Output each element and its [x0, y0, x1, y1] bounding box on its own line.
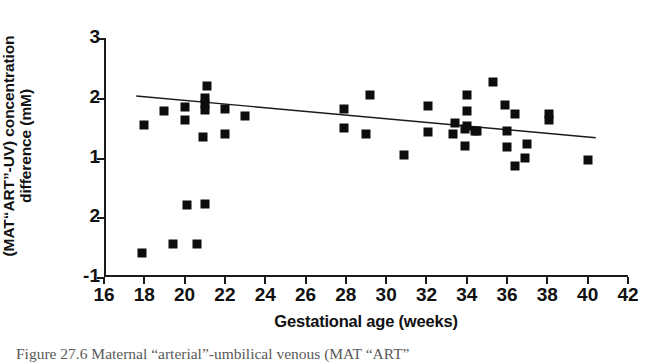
- y-tick-label: 1: [89, 147, 100, 167]
- data-point: [511, 162, 520, 171]
- data-point: [339, 123, 348, 132]
- x-tick-label: 20: [174, 285, 195, 305]
- data-point: [450, 119, 459, 128]
- figure-caption: Figure 27.6 Maternal “arterial”-umbilica…: [16, 345, 664, 362]
- data-point: [424, 101, 433, 110]
- data-point: [460, 141, 469, 150]
- data-point: [180, 102, 189, 111]
- x-tick-label: 22: [214, 285, 235, 305]
- data-point: [501, 100, 510, 109]
- y-tick-label: 2: [89, 206, 100, 226]
- x-tick-label: 24: [255, 285, 276, 305]
- x-tick-mark: [345, 277, 347, 284]
- x-tick-mark: [587, 277, 589, 284]
- data-point: [503, 126, 512, 135]
- data-point: [472, 126, 481, 135]
- data-point: [160, 106, 169, 115]
- x-tick-label: 42: [617, 285, 638, 305]
- y-tick-label: 3: [89, 27, 100, 47]
- x-tick-label: 16: [93, 285, 114, 305]
- x-tick-mark: [224, 277, 226, 284]
- y-axis-title-wrap: (MAT“ART”-UV) concentration difference (…: [0, 0, 62, 300]
- data-point: [182, 201, 191, 210]
- data-point: [180, 116, 189, 125]
- x-tick-mark: [305, 277, 307, 284]
- data-point: [583, 156, 592, 165]
- data-point: [192, 240, 201, 249]
- data-point: [503, 143, 512, 152]
- regression-trend-line: [104, 38, 628, 277]
- data-point: [220, 129, 229, 138]
- x-tick-label: 32: [416, 285, 437, 305]
- data-point: [241, 111, 250, 120]
- data-point: [511, 109, 520, 118]
- x-tick-mark: [546, 277, 548, 284]
- x-tick-mark: [627, 277, 629, 284]
- data-point: [424, 127, 433, 136]
- data-point: [448, 129, 457, 138]
- data-point: [168, 240, 177, 249]
- x-tick-mark: [385, 277, 387, 284]
- y-tick-label: -1: [83, 266, 100, 286]
- data-point: [545, 110, 554, 119]
- x-tick-mark: [264, 277, 266, 284]
- data-point: [339, 104, 348, 113]
- data-point: [220, 104, 229, 113]
- x-tick-label: 18: [134, 285, 155, 305]
- data-point: [362, 129, 371, 138]
- data-point: [521, 153, 530, 162]
- data-point: [366, 90, 375, 99]
- x-tick-label: 30: [376, 285, 397, 305]
- x-tick-mark: [506, 277, 508, 284]
- data-point: [200, 93, 209, 102]
- y-tick-label: 2: [89, 87, 100, 107]
- x-tick-label: 26: [295, 285, 316, 305]
- data-point: [202, 81, 211, 90]
- x-tick-label: 36: [496, 285, 517, 305]
- x-tick-mark: [466, 277, 468, 284]
- data-point: [198, 132, 207, 141]
- x-axis-title: Gestational age (weeks): [104, 312, 628, 331]
- data-point: [138, 249, 147, 258]
- y-axis-title-line-1: (MAT“ART”-UV) concentration: [0, 0, 17, 292]
- data-point: [462, 106, 471, 115]
- data-point: [488, 77, 497, 86]
- x-tick-mark: [143, 277, 145, 284]
- data-point: [523, 139, 532, 148]
- x-tick-label: 38: [537, 285, 558, 305]
- x-tick-label: 28: [335, 285, 356, 305]
- data-point: [140, 120, 149, 129]
- x-tick-label: 34: [456, 285, 477, 305]
- y-axis-title-line-2: difference (mM): [17, 0, 34, 292]
- x-tick-mark: [103, 277, 105, 284]
- data-point: [462, 90, 471, 99]
- data-point: [400, 150, 409, 159]
- data-point: [200, 200, 209, 209]
- y-axis-title: (MAT“ART”-UV) concentration difference (…: [0, 0, 34, 292]
- x-tick-mark: [184, 277, 186, 284]
- x-tick-mark: [425, 277, 427, 284]
- figure-scatter-plot: (MAT“ART”-UV) concentration difference (…: [0, 0, 664, 362]
- x-tick-label: 40: [577, 285, 598, 305]
- plot-area: 3212-1 1618202224262830323436384042: [104, 38, 628, 277]
